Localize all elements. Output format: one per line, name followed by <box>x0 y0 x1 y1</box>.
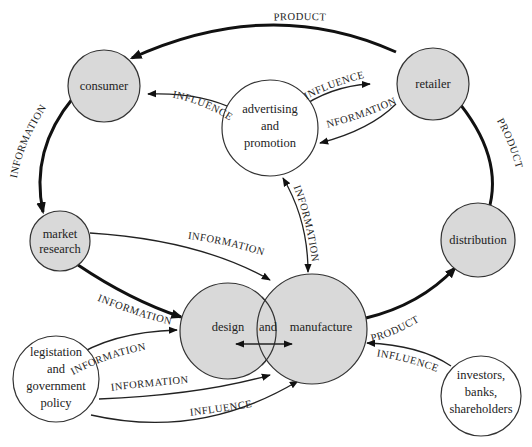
svg-text:market: market <box>43 227 78 241</box>
svg-text:promotion: promotion <box>244 136 297 150</box>
svg-text:research: research <box>39 242 81 256</box>
svg-text:and: and <box>261 119 280 133</box>
node-market-research: market research <box>30 211 90 271</box>
label-influence-leg: INFLUENCE <box>189 398 252 418</box>
svg-text:and: and <box>47 362 66 376</box>
label-and: and <box>259 320 278 334</box>
label-design: design <box>212 320 245 334</box>
svg-text:consumer: consumer <box>80 79 129 93</box>
svg-text:policy: policy <box>40 396 72 410</box>
node-consumer: consumer <box>68 50 140 122</box>
label-product-bottom: PRODUCT <box>370 313 421 343</box>
svg-text:legistation: legistation <box>30 345 83 359</box>
label-info-mr-manufacture: INFORMATION <box>187 230 266 258</box>
svg-text:advertising: advertising <box>242 102 298 116</box>
label-influence-investors: INFLUENCE <box>376 347 440 373</box>
label-manufacture: manufacture <box>290 320 353 334</box>
node-distribution: distribution <box>441 203 515 277</box>
svg-text:retailer: retailer <box>415 77 451 91</box>
node-investors-banks-shareholders: investors, banks, shareholders <box>441 356 521 436</box>
flow-diagram: consumer retailer advertising and promot… <box>0 0 532 447</box>
edge-consumer-market-research <box>40 98 73 212</box>
label-product-top: PRODUCT <box>273 11 326 23</box>
svg-text:investors,: investors, <box>457 368 505 382</box>
edge-manufacture-distribution <box>366 268 455 318</box>
edge-market-research-manufacture <box>90 233 270 280</box>
svg-text:shareholders: shareholders <box>449 402 512 416</box>
node-legislation-and-government-policy: legistation and government policy <box>13 336 99 422</box>
svg-text:banks,: banks, <box>465 385 497 399</box>
label-product-right: PRODUCT <box>495 116 525 170</box>
edge-retailer-consumer <box>132 25 396 58</box>
node-retailer: retailer <box>397 48 469 120</box>
svg-text:government: government <box>26 379 86 393</box>
label-info-leg-manufacture: INFORMATION <box>110 374 189 393</box>
label-info-retailer: INFORMATION <box>0 0 398 130</box>
svg-text:distribution: distribution <box>449 233 507 247</box>
